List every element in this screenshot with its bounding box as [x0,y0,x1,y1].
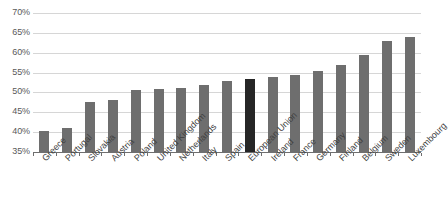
plot-area [33,13,421,152]
y-axis-tick-label: 70% [0,8,30,17]
y-axis-tick-label: 55% [0,68,30,77]
y-axis-tick-label: 65% [0,28,30,37]
y-axis-tick-label: 40% [0,127,30,136]
bar-european-union [245,79,255,152]
bar-spain [222,81,232,152]
gridline [33,53,421,54]
y-axis-tick-labels: 70%65%60%55%50%45%40%35% [0,0,30,224]
y-axis-tick-label: 35% [0,147,30,156]
gridline [33,13,421,14]
y-axis-tick-label: 60% [0,48,30,57]
gridline [33,33,421,34]
y-axis-tick-label: 45% [0,107,30,116]
y-axis-tick-label: 50% [0,87,30,96]
x-axis-category-labels: GreecePortugalSlovakiaAustriaPolandUnite… [33,152,421,224]
